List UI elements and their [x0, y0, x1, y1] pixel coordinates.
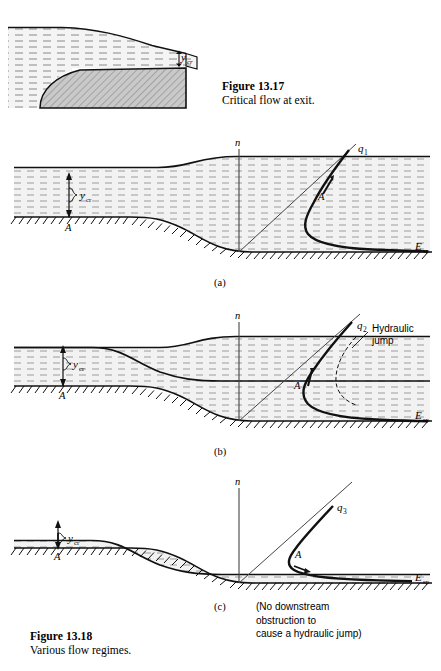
panel-b-ycr-sub: cr [79, 365, 85, 373]
reservoir-water-surface-region [8, 28, 186, 68]
panel-a-q-sub: 1 [364, 148, 368, 157]
panel-c-ycr-label: y [67, 532, 73, 544]
panel-b-water-body [14, 337, 430, 422]
panel-c-datum-label: A [53, 551, 61, 562]
panel-c-n-axis-label: n [235, 478, 240, 487]
figure-13-18-caption-title: Figure 13.18 [30, 630, 131, 644]
figure-13-18-panel-a: y cr A n q 1 A E sp [0, 138, 441, 273]
panel-a-water-body [14, 157, 430, 253]
panel-b-q-sub: 2 [363, 325, 367, 334]
panel-c-45-degree-line [239, 482, 352, 583]
panel-b-hydraulic-jump-annotation: Hydraulic jump [372, 323, 414, 347]
panel-a-ycr-label: y [79, 189, 85, 201]
panel-b-ycr-label: y [72, 358, 78, 370]
panel-a-esp-label: E [414, 240, 422, 252]
panel-a-n-axis-label: n [235, 138, 240, 148]
panel-b-datum-label: A [58, 390, 66, 401]
panel-b-sublabel: (b) [214, 446, 226, 457]
panel-c-point-A-label: A [294, 549, 302, 560]
panel-c-q-sub: 3 [343, 507, 347, 516]
panel-c-esp-label: E [414, 571, 422, 583]
panel-a-datum-label: A [64, 222, 72, 233]
panel-b-n-axis-label: n [235, 310, 240, 321]
figure-13-18-panel-b: y cr A n q 2 A E sp [0, 300, 441, 440]
figure-13-18-caption-text: Various flow regimes. [30, 644, 131, 658]
figure-13-18-panel-c: y cr A n q 3 A E sp [0, 478, 441, 603]
figure-13-17-caption: Figure 13.17 Critical flow at exit. [222, 80, 315, 107]
panel-a-sublabel: (a) [214, 277, 226, 288]
no-downstream-obstruction-note: (No downstream obstruction to cause a hy… [256, 600, 436, 641]
panel-b-esp-label: E [414, 409, 422, 421]
figure-13-17-drawing: y cr [0, 8, 230, 113]
ycr-sub-1317: cr [187, 58, 193, 66]
panel-c-ycr-sub: cr [74, 539, 80, 547]
panel-c-sublabel: (c) [214, 601, 226, 612]
ycr-label-1317: y [180, 52, 186, 63]
figure-13-17-caption-text: Critical flow at exit. [222, 94, 315, 108]
figure-13-18-caption: Figure 13.18 Various flow regimes. [30, 630, 131, 657]
panel-a-point-A-label: A [317, 191, 325, 202]
panel-c-esp-sub: sp [423, 578, 430, 586]
figure-13-17-caption-title: Figure 13.17 [222, 80, 315, 94]
panel-a-esp-sub: sp [423, 247, 430, 255]
panel-b-point-A-label: A [293, 380, 301, 391]
panel-b-esp-sub: sp [423, 416, 430, 424]
panel-a-ycr-sub: cr [86, 196, 92, 204]
